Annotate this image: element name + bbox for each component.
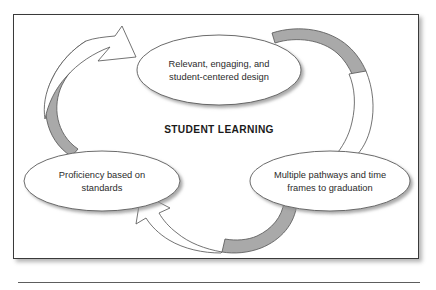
node-design-shape xyxy=(137,35,301,105)
figure-root: STUDENT LEARNING Relevant, engaging, and… xyxy=(0,0,436,290)
node-proficiency-line1: Proficiency based on xyxy=(59,170,145,180)
node-proficiency-line2: standards xyxy=(82,183,123,193)
node-design-line2: student-centered design xyxy=(169,72,269,82)
node-design-line1: Relevant, engaging, and xyxy=(169,59,270,69)
node-pathways-shape xyxy=(250,151,410,211)
node-design[interactable]: Relevant, engaging, and student-centered… xyxy=(137,35,301,105)
left-arrow xyxy=(44,26,136,157)
cycle-diagram: STUDENT LEARNING Relevant, engaging, and… xyxy=(0,0,436,290)
node-proficiency[interactable]: Proficiency based on standards xyxy=(24,151,180,211)
footer-rule xyxy=(18,282,420,283)
node-proficiency-shape xyxy=(24,151,180,211)
bottom-arrow-shade xyxy=(222,202,297,253)
left-arrow-body xyxy=(44,26,136,119)
node-pathways-line1: Multiple pathways and time xyxy=(274,170,386,180)
center-label: STUDENT LEARNING xyxy=(164,124,274,135)
node-pathways[interactable]: Multiple pathways and time frames to gra… xyxy=(250,151,410,211)
node-pathways-line2: frames to graduation xyxy=(287,183,372,193)
